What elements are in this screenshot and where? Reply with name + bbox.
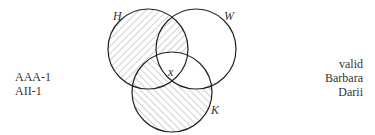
label-w: W — [224, 9, 235, 23]
marker-x: x — [167, 65, 174, 79]
venn-diagram: H W K x — [0, 0, 375, 135]
label-k: K — [210, 103, 220, 117]
label-h: H — [112, 9, 123, 23]
